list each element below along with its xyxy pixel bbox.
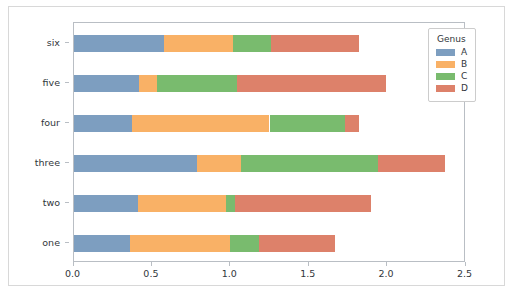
x-tick-label: 2.0 — [379, 268, 394, 279]
bar-segment-a[interactable] — [74, 115, 132, 132]
legend-entry[interactable]: D — [436, 83, 468, 93]
bar-segment-d[interactable] — [345, 115, 359, 132]
bar-row[interactable] — [74, 75, 466, 92]
bar-row[interactable] — [74, 35, 466, 52]
bars-container — [74, 23, 464, 261]
legend-label: B — [461, 59, 467, 69]
bar-row[interactable] — [74, 155, 466, 172]
y-axis: sixfivefourthreetwoone — [0, 22, 68, 262]
bar-segment-b[interactable] — [138, 195, 226, 212]
x-tick-label: 1.5 — [300, 268, 315, 279]
legend: Genus ABCD — [428, 28, 476, 102]
bar-segment-d[interactable] — [259, 235, 336, 252]
legend-label: A — [461, 47, 467, 57]
bar-segment-b[interactable] — [130, 235, 230, 252]
bar-segment-a[interactable] — [74, 75, 140, 92]
bar-segment-c[interactable] — [270, 115, 345, 132]
bar-segment-c[interactable] — [226, 195, 235, 212]
x-tick-mark — [308, 262, 309, 266]
y-tick-mark — [65, 42, 69, 43]
bar-segment-c[interactable] — [157, 75, 237, 92]
bar-segment-a[interactable] — [74, 155, 198, 172]
legend-label: D — [461, 83, 468, 93]
x-tick-label: 0.5 — [143, 268, 158, 279]
x-tick-mark — [386, 262, 387, 266]
bar-row[interactable] — [74, 195, 466, 212]
legend-title: Genus — [436, 34, 468, 44]
y-tick-label: five — [43, 77, 60, 88]
x-tick-mark — [465, 262, 466, 266]
bar-segment-d[interactable] — [271, 35, 359, 52]
x-tick-label: 0.0 — [65, 268, 80, 279]
bar-segment-a[interactable] — [74, 195, 138, 212]
x-tick-mark — [73, 262, 74, 266]
bar-row[interactable] — [74, 115, 466, 132]
axes-plot-area — [73, 22, 465, 262]
y-tick-mark — [65, 242, 69, 243]
bar-segment-a[interactable] — [74, 235, 130, 252]
y-tick-label: three — [35, 157, 60, 168]
bar-segment-d[interactable] — [378, 155, 445, 172]
bar-segment-c[interactable] — [233, 35, 271, 52]
bar-segment-b[interactable] — [197, 155, 241, 172]
y-tick-mark — [65, 202, 69, 203]
legend-label: C — [461, 71, 467, 81]
y-tick-mark — [65, 82, 69, 83]
y-tick-mark — [65, 162, 69, 163]
legend-entry[interactable]: C — [436, 71, 468, 81]
bar-segment-d[interactable] — [235, 195, 371, 212]
x-tick-mark — [151, 262, 152, 266]
bar-segment-b[interactable] — [132, 115, 270, 132]
legend-swatch-a — [436, 49, 455, 56]
figure: sixfivefourthreetwoone 0.00.51.01.52.02.… — [0, 0, 513, 293]
y-tick-label: one — [42, 237, 60, 248]
y-tick-label: four — [41, 117, 60, 128]
bar-segment-b[interactable] — [139, 75, 156, 92]
bar-segment-d[interactable] — [237, 75, 386, 92]
legend-swatch-d — [436, 85, 455, 92]
x-tick-label: 1.0 — [222, 268, 237, 279]
y-tick-label: two — [43, 197, 60, 208]
legend-swatch-c — [436, 73, 455, 80]
legend-entry[interactable]: B — [436, 59, 468, 69]
bar-segment-c[interactable] — [241, 155, 377, 172]
legend-entries: ABCD — [436, 47, 468, 93]
bar-row[interactable] — [74, 235, 466, 252]
x-tick-label: 2.5 — [457, 268, 472, 279]
y-tick-mark — [65, 122, 69, 123]
bar-segment-a[interactable] — [74, 35, 165, 52]
y-tick-label: six — [47, 37, 60, 48]
bar-segment-b[interactable] — [164, 35, 233, 52]
legend-entry[interactable]: A — [436, 47, 468, 57]
legend-swatch-b — [436, 61, 455, 68]
bar-segment-c[interactable] — [230, 235, 258, 252]
x-tick-mark — [229, 262, 230, 266]
x-axis: 0.00.51.01.52.02.5 — [73, 262, 465, 284]
